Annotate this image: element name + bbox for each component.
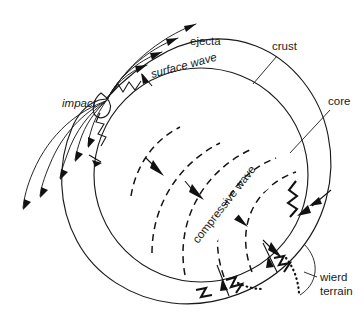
surface-wave-arrowhead-upper [141,73,149,84]
antipode-terrain-outline [300,244,315,295]
core-leader-line [290,110,330,153]
wavefront-arrowhead-4 [268,242,282,258]
ejecta-arrowhead-9 [88,137,95,148]
ejecta-lower-group [23,101,106,210]
ejecta-arc-6 [40,101,106,196]
ejecta-arrowhead-6 [40,187,48,198]
impact-label: impact [62,97,97,109]
wavefront-1 [131,127,180,196]
ejecta-label: ejecta [190,35,221,47]
crust-leader-line [253,56,277,84]
surface-wave-arrowhead-lower [92,160,102,167]
label-group: ejecta surface wave impact crust core wi… [62,35,353,297]
surface-wave-ripple-upper [112,81,141,93]
ejecta-arrowhead-1 [184,24,196,32]
fracture-arrowhead-right-inner [297,205,311,216]
diagram-canvas: compressive wave ejecta surface wave imp… [0,0,364,330]
core-label: core [328,95,350,107]
compressive-wave-group [131,127,296,277]
compressive-wave-banner: compressive wave [190,163,272,254]
surface-wave-group [89,73,152,167]
wavefront-arrowhead-1 [150,160,164,176]
ejecta-arrowhead-2 [166,38,178,46]
crust-label: crust [272,40,298,52]
ejecta-arc-5 [23,101,106,208]
fracture-zigzag-right [288,181,297,217]
impact-diagram: compressive wave ejecta surface wave imp… [0,0,364,330]
wierd-terrain-label-line1: wierd [319,271,347,283]
fracture-zigzag-antipode-2 [226,277,242,293]
ejecta-arrowhead-4 [135,65,147,73]
fracture-arrowhead-right-outer [309,197,322,206]
ejecta-arc-4 [107,65,147,100]
ejecta-arrowhead-5 [23,199,31,210]
ejecta-arc-8 [75,101,106,160]
ejecta-arrowhead-3 [150,52,162,60]
ejecta-arrowhead-7 [60,169,68,180]
ejecta-arrowhead-8 [75,151,83,162]
fracture-zigzag-antipode-3 [196,288,212,297]
wierd-terrain-label-line2: terrain [320,285,353,297]
